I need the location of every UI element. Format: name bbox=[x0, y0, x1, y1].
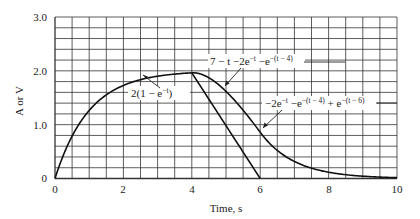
annotation-rise: 2(1 − e−t) bbox=[128, 75, 190, 100]
y-tick-label-3: 3.0 bbox=[33, 11, 47, 23]
y-tick-label-1: 1.0 bbox=[33, 119, 47, 131]
y-tick-label-2: 2.0 bbox=[33, 65, 47, 77]
x-tick-label-2: 2 bbox=[120, 183, 126, 195]
chart: 3.0 2.0 1.0 0 0 2 4 6 8 10 Time, s A or … bbox=[0, 0, 420, 219]
x-tick-label-8: 8 bbox=[326, 183, 332, 195]
annotation-decay-tail: −2e−t −e−(t − 4) + e−(t − 6) bbox=[262, 96, 397, 128]
x-tick-label-6: 6 bbox=[257, 183, 263, 195]
y-tick-label-0: 0 bbox=[42, 172, 48, 184]
x-tick-label-4: 4 bbox=[189, 183, 195, 195]
x-tick-label-0: 0 bbox=[52, 183, 58, 195]
y-axis-title: A or V bbox=[13, 86, 25, 116]
x-axis-title: Time, s bbox=[210, 202, 243, 214]
x-tick-label-10: 10 bbox=[392, 183, 404, 195]
